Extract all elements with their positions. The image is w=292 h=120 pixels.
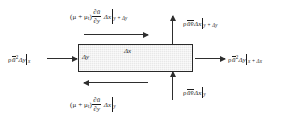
left-inflow-velocity: ū	[12, 57, 16, 64]
top-reynolds-area: Δx	[194, 20, 201, 28]
top-shear-arrow	[84, 34, 148, 35]
left-inflow-arrow	[47, 58, 77, 59]
top-reynolds-flux-label: ρūv̄Δxy + Δy	[183, 18, 218, 29]
control-volume-box	[78, 44, 193, 72]
top-reynolds-eval-point: y + Δy	[204, 23, 218, 28]
bottom-shear-force-label: (μ + μt)∂ū∂yΔxy	[70, 97, 116, 113]
bottom-shear-derivative: ∂ū∂y	[92, 97, 101, 112]
bottom-shear-derivative-denominator: ∂y	[92, 105, 101, 112]
arrow-head-icon	[72, 56, 78, 62]
control-volume-figure: (μ + μt)∂ū∂yΔxy + Δy ρūv̄Δxy + Δy Δy Δ…	[0, 0, 292, 120]
right-outflow-label: ρū2Δyx + Δx	[228, 54, 262, 65]
top-shear-derivative: ∂ū∂y	[92, 9, 101, 24]
bottom-shear-length: Δx	[104, 101, 111, 109]
arrow-head-icon	[143, 32, 149, 38]
left-inflow-eval-point: x	[28, 59, 30, 64]
top-shear-prefactor: (μ + μ	[70, 13, 88, 21]
top-reynolds-velocity: ūv̄	[187, 21, 194, 28]
bottom-reynolds-velocity: ūv̄	[187, 90, 194, 97]
bottom-shear-prefactor: (μ + μ	[70, 101, 88, 109]
delta-x-dimension-label: Δx	[124, 48, 131, 55]
bottom-reynolds-area: Δx	[194, 89, 201, 97]
left-inflow-label: ρū2Δyx	[8, 54, 30, 65]
arrow-head-icon	[170, 71, 176, 77]
top-shear-derivative-denominator: ∂y	[92, 17, 101, 24]
right-outflow-velocity: ū	[232, 57, 236, 64]
delta-y-dimension-label: Δy	[82, 54, 89, 61]
bottom-reynolds-arrow	[172, 72, 173, 100]
arrow-head-icon	[83, 80, 89, 86]
top-shear-length: Δx	[104, 13, 111, 21]
right-outflow-arrow	[195, 58, 225, 59]
bottom-reynolds-eval-point: y	[204, 92, 206, 97]
top-shear-force-label: (μ + μt)∂ū∂yΔxy + Δy	[70, 9, 127, 25]
right-outflow-area: Δy	[238, 56, 245, 64]
right-outflow-eval-point: x + Δx	[248, 59, 262, 64]
bottom-reynolds-flux-label: ρūv̄Δxy	[183, 87, 206, 98]
bottom-shear-eval-point: y	[113, 104, 115, 109]
arrow-head-icon	[170, 15, 176, 21]
top-reynolds-arrow	[172, 16, 173, 44]
bottom-shear-arrow	[84, 82, 148, 83]
top-shear-eval-point: y + Δy	[113, 16, 127, 21]
left-inflow-area: Δy	[18, 56, 25, 64]
arrow-head-icon	[220, 56, 226, 62]
